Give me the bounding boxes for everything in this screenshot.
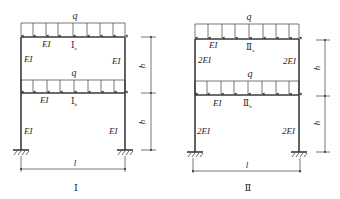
distributed-load-top: q — [21, 10, 125, 36]
upper-story-label: Ⅱa — [246, 42, 255, 53]
lower-right-column-stiffness: 2EI — [282, 126, 296, 136]
fixed-support-right — [117, 150, 133, 155]
span-label: l — [246, 160, 249, 170]
load-label-middle: q — [248, 68, 253, 79]
lower-story-label: Ⅰb — [71, 96, 78, 107]
load-label-top: q — [247, 11, 252, 22]
frame-1: q q — [13, 10, 156, 193]
upper-left-column-stiffness: 2EI — [198, 55, 212, 65]
upper-right-column-stiffness: EI — [111, 56, 121, 66]
lower-beam-stiffness: EI — [212, 98, 222, 108]
upper-right-column-stiffness: 2EI — [283, 56, 297, 66]
span-dimension: l — [20, 156, 126, 172]
load-label-middle: q — [72, 67, 77, 78]
load-label-top: q — [73, 10, 78, 21]
two-frame-diagram: q q — [0, 0, 340, 199]
upper-story-label: Ⅰa — [71, 40, 78, 51]
lower-beam-stiffness: EI — [39, 95, 49, 105]
height-label-upper: h — [137, 63, 147, 68]
distributed-load-middle: q — [195, 68, 299, 94]
upper-beam-stiffness: EI — [41, 39, 51, 49]
lower-story-label: Ⅱb — [243, 98, 252, 109]
span-dimension: l — [192, 158, 301, 173]
fixed-support-left — [13, 150, 29, 155]
lower-right-column-stiffness: EI — [108, 126, 118, 136]
frame-caption: Ⅰ — [74, 182, 78, 193]
span-label: l — [74, 158, 77, 168]
distributed-load-top: q — [195, 11, 299, 38]
height-dimension: h h — [137, 36, 156, 151]
frame-2: q q — [187, 11, 330, 193]
upper-beam-stiffness: EI — [208, 40, 218, 50]
height-label-upper: h — [312, 65, 322, 70]
lower-left-column-stiffness: EI — [23, 126, 33, 136]
height-label-lower: h — [137, 119, 147, 124]
height-dimension: h h — [312, 39, 330, 153]
distributed-load-middle: q — [21, 67, 125, 92]
upper-left-column-stiffness: EI — [23, 54, 33, 64]
height-label-lower: h — [312, 120, 322, 125]
lower-left-column-stiffness: 2EI — [197, 126, 211, 136]
frame-caption: Ⅱ — [245, 182, 252, 193]
fixed-support-right — [291, 152, 307, 157]
fixed-support-left — [187, 152, 203, 157]
